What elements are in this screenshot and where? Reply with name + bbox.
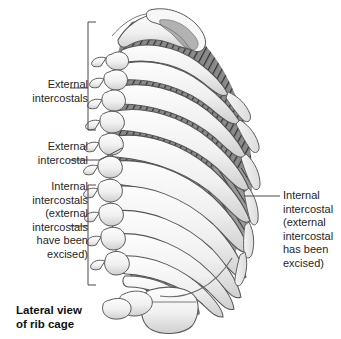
label-external-intercostal: External intercostal [8,140,88,167]
rib-cage-figure: External intercostals External intercost… [0,0,341,339]
label-external-intercostals: External intercostals [8,78,88,105]
label-internal-intercostals-excised: Internal intercostals (external intercos… [4,180,88,261]
bracket-external-intercostals [88,22,96,130]
figure-caption: Lateral view of rib cage [16,303,82,331]
label-internal-intercostal-excised: Internal intercostal (external intercost… [283,189,341,270]
lumbar-vertebra [102,287,198,333]
rib-cage-illustration [0,0,341,339]
